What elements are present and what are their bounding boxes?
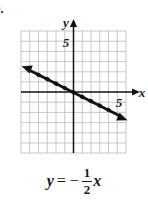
fraction-numerator: 1: [82, 166, 93, 181]
equation: y = − 1 2 x: [47, 166, 102, 196]
equation-fraction: 1 2: [82, 166, 93, 196]
y-axis-label: y: [61, 15, 69, 30]
x-axis-tick-label-5: 5: [116, 95, 123, 110]
y-axis-tick-label-5: 5: [63, 35, 70, 50]
fraction-denominator: 2: [82, 181, 93, 197]
x-axis-label: x: [138, 85, 146, 100]
coordinate-plane-figure: y x 5 5: [0, 0, 148, 160]
equation-x: x: [93, 173, 101, 189]
equation-minus: −: [70, 173, 79, 189]
y-axis-arrow-icon: [70, 19, 77, 27]
equation-equals: =: [57, 173, 66, 189]
equation-caption: y = − 1 2 x: [0, 160, 148, 202]
graph-svg: y x 5 5: [0, 0, 148, 160]
equation-y: y: [47, 173, 54, 189]
